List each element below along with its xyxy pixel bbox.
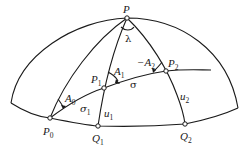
label-u1: u1 xyxy=(104,107,114,122)
point-p2 xyxy=(164,69,168,73)
label-sigma1: σ1 xyxy=(80,103,91,117)
geodesic-arc xyxy=(50,70,211,118)
equator-arc xyxy=(11,103,238,126)
point-q2 xyxy=(183,122,187,126)
label-q1: Q1 xyxy=(92,132,104,147)
point-p0 xyxy=(48,116,52,120)
label-a1: A1 xyxy=(113,65,125,80)
label-u2: u2 xyxy=(180,90,190,105)
label-p0: P0 xyxy=(42,125,54,140)
label-sigma: σ xyxy=(130,79,137,90)
label-a2: −A2 xyxy=(137,56,155,71)
geodesic-diagram: P P0 P1 P2 Q1 Q2 λ A0 A1 −A2 σ σ1 u1 u2 xyxy=(0,0,244,159)
dome-outline xyxy=(11,18,238,108)
label-p2: P2 xyxy=(167,57,179,72)
point-p1 xyxy=(102,86,106,90)
label-q2: Q2 xyxy=(180,130,192,145)
label-p: P xyxy=(122,3,130,15)
point-q1 xyxy=(96,124,100,128)
label-lambda: λ xyxy=(125,33,132,44)
point-p xyxy=(125,16,129,20)
label-p1: P1 xyxy=(90,73,102,88)
